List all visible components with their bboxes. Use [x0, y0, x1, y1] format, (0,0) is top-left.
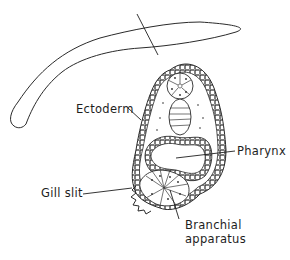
- section-plane-line: [137, 14, 158, 55]
- label-branchial-line2: apparatus: [185, 232, 246, 246]
- label-branchial-line1: Branchial: [185, 218, 242, 232]
- label-gill-slit: Gill slit: [41, 186, 83, 200]
- gill-slit-leader: [83, 188, 132, 194]
- notochord: [169, 99, 191, 135]
- neural-tube: [167, 73, 193, 99]
- label-pharynx: Pharynx: [237, 144, 286, 158]
- cross-section: [131, 64, 226, 214]
- diagram-canvas: Ectoderm Pharynx Gill slit Branchial app…: [0, 0, 290, 260]
- label-ectoderm: Ectoderm: [76, 102, 134, 116]
